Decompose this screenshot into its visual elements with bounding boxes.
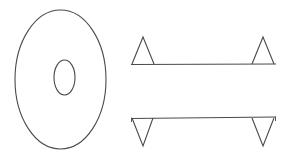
disc-outer-ellipse [15,10,106,149]
top-bar-baseline [131,64,276,65]
bottom-bar-left-triangle [132,118,153,146]
disc-bore-ellipse [54,60,75,95]
drawing-canvas: Technical Line Drawing [0,0,282,159]
bottom-side-view-bar [131,117,276,147]
technical-drawing: Technical Line Drawing [0,0,282,159]
front-view-disc [15,10,106,149]
bottom-bar-right-triangle [252,118,274,146]
top-bar-right-triangle [252,37,274,64]
top-bar-left-triangle [132,37,154,64]
top-side-view-bar [131,37,276,65]
